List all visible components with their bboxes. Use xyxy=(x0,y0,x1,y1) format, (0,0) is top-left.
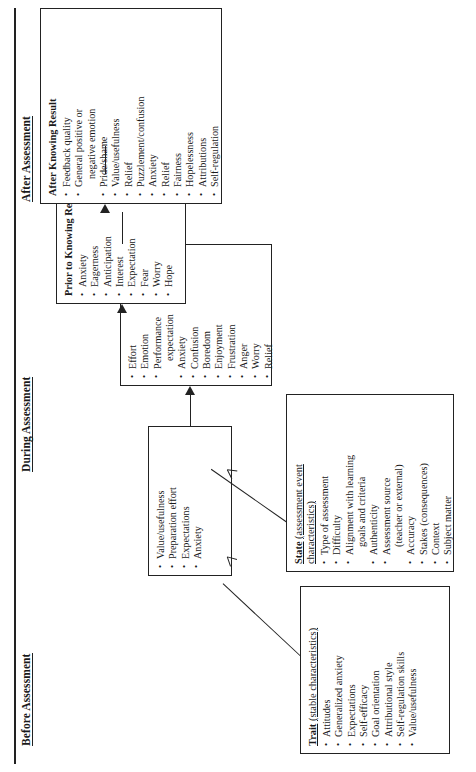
list-item: Pride/shame xyxy=(98,16,110,196)
list-item: Attributions xyxy=(197,16,209,196)
box-state-title-bold: State xyxy=(293,541,304,564)
list-item: Accuracy xyxy=(405,402,417,564)
connector-trait-to-before xyxy=(223,583,301,656)
box-trait-title-rest: (stable characteristics) xyxy=(307,628,318,721)
list-item: Puzzlement/confusion xyxy=(135,16,147,196)
list-item: Preparation effort xyxy=(167,434,179,568)
list-item: Anxiety xyxy=(147,16,159,196)
list-item: Confusion xyxy=(189,252,201,378)
list-item: Self-efficacy xyxy=(358,594,370,746)
connector-before-to-during xyxy=(190,394,191,426)
rotated-figure-wrapper: Before Assessment During Assessment Afte… xyxy=(0,0,476,772)
list-item: Relief xyxy=(160,16,172,196)
box-before-assessment: Value/usefulness Preparation effort Expe… xyxy=(148,426,232,576)
arrowhead-prior-to-after xyxy=(100,204,110,213)
list-item: Type of assessment xyxy=(319,402,331,564)
timeline-axis xyxy=(14,8,16,764)
list-item: Expectations xyxy=(180,434,192,568)
list-item: Value/usefulness xyxy=(110,16,122,196)
phase-label-after-assessment: After Assessment xyxy=(20,116,33,202)
box-before-list: Value/usefulness Preparation effort Expe… xyxy=(155,434,204,568)
box-state: State (assessment event characteristics)… xyxy=(286,394,454,572)
list-item: Goal orientation xyxy=(370,594,382,746)
list-item: Anxiety xyxy=(192,434,204,568)
box-trait: Trait (stable characteristics) Attitudes… xyxy=(300,586,450,754)
list-item-continuation: goals and criteria xyxy=(356,402,368,564)
list-item: Fairness xyxy=(172,16,184,196)
arrowhead-during-to-prior xyxy=(117,304,127,313)
box-trait-title-bold: Trait xyxy=(307,724,318,746)
list-item-continuation: negative emotion xyxy=(86,16,98,196)
box-trait-title: Trait (stable characteristics) xyxy=(307,594,319,746)
list-item: Self-regulation skills xyxy=(395,594,407,746)
list-item: Generalized anxiety xyxy=(333,594,345,746)
list-item: General positive or xyxy=(73,16,85,196)
arrowhead-before-to-during xyxy=(185,386,195,395)
list-item-continuation: (teacher or external) xyxy=(393,402,405,564)
list-item: Context xyxy=(430,402,442,564)
list-item: Anger xyxy=(238,252,250,378)
box-trait-list: Attitudes Generalized anxiety Expectatio… xyxy=(321,594,419,746)
box-state-title: State (assessment event characteristics) xyxy=(293,402,317,564)
list-item: Hopelessness xyxy=(184,16,196,196)
list-item: Enjoyment xyxy=(213,252,225,378)
list-item: Worry xyxy=(250,252,262,378)
list-item: Value/usefulness xyxy=(407,594,419,746)
list-item: Attributional style xyxy=(383,594,395,746)
phase-label-before-assessment: Before Assessment xyxy=(20,653,33,746)
diagram-canvas: Before Assessment During Assessment Afte… xyxy=(0,0,476,772)
list-item: Expectations xyxy=(346,594,358,746)
box-after-knowing-result: After Knowing Result Feedback quality Ge… xyxy=(40,8,222,204)
list-item: Value/usefulness xyxy=(155,434,167,568)
list-item: Subject matter xyxy=(442,402,454,564)
connector-prior-to-after xyxy=(105,146,106,174)
list-item: Authenticity xyxy=(368,402,380,564)
box-after-list: Feedback quality General positive or neg… xyxy=(61,16,221,196)
list-item: Relief xyxy=(263,252,275,378)
list-item: Alignment with learning xyxy=(344,402,356,564)
list-item: Attitudes xyxy=(321,594,333,746)
box-state-list: Type of assessment Difficulty Alignment … xyxy=(319,402,454,564)
list-item: Difficulty xyxy=(331,402,343,564)
phase-label-during-assessment: During Assessment xyxy=(20,377,33,472)
list-item: Feedback quality xyxy=(61,16,73,196)
connector-during-to-prior xyxy=(122,212,123,244)
list-item: Frustration xyxy=(226,252,238,378)
list-item: Relief xyxy=(123,16,135,196)
list-item: Self-regulation xyxy=(209,16,221,196)
list-item: Assessment source xyxy=(381,402,393,564)
list-item: Stakes (consequences) xyxy=(418,402,430,564)
box-after-title: After Knowing Result xyxy=(47,16,59,196)
list-item: Boredom xyxy=(201,252,213,378)
